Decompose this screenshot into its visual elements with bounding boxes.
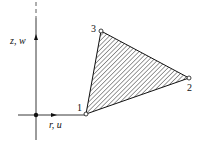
- diagram-graphic: [0, 0, 205, 146]
- origin-dot: [34, 113, 38, 117]
- hatched-triangle: [86, 31, 189, 114]
- triangular-element-diagram: z, w r, u 1 2 3: [0, 0, 205, 146]
- vertical-axis-label: z, w: [10, 36, 26, 46]
- node-1: [84, 112, 88, 116]
- horizontal-axis: [18, 113, 86, 117]
- node-3: [99, 29, 103, 33]
- arrow-up-icon: [34, 34, 38, 40]
- vertical-axis: [34, 2, 38, 140]
- arrow-right-icon: [51, 113, 57, 117]
- node-2-label: 2: [187, 83, 192, 93]
- node-2: [187, 76, 191, 80]
- node-3-label: 3: [91, 24, 96, 34]
- node-1-label: 1: [77, 103, 82, 113]
- horizontal-axis-label: r, u: [49, 120, 62, 130]
